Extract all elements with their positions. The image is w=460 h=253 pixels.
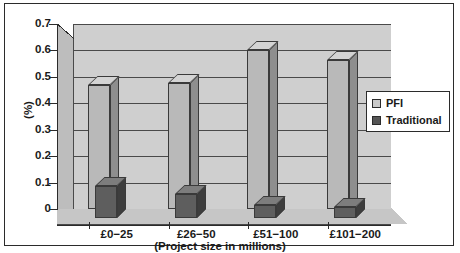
x-tick-label: £101−200	[330, 228, 382, 240]
y-tick-mark	[49, 24, 58, 25]
y-tick-label: 0	[11, 203, 51, 215]
y-axis-top-slant	[57, 24, 74, 39]
legend-item-pfi: PFI	[372, 96, 442, 110]
bar-side	[349, 51, 358, 209]
y-tick-mark	[49, 130, 58, 131]
bar-traditional	[175, 194, 197, 218]
legend-swatch-icon	[372, 99, 381, 108]
y-tick-label: 0.6	[11, 45, 51, 57]
chart-legend: PFI Traditional	[366, 91, 450, 132]
plot-side-wall	[57, 38, 73, 209]
y-tick-label: 0.1	[11, 177, 51, 189]
y-tick-mark	[49, 77, 58, 78]
legend-swatch-icon	[372, 116, 381, 125]
y-tick-label: 0.5	[11, 71, 51, 83]
y-tick-mark	[49, 156, 58, 157]
y-axis-tick-labels: 0.7 0.6 0.5 0.4 0.3 0.2 0.1 0	[7, 4, 51, 253]
x-tick-mark	[328, 222, 329, 229]
legend-label: PFI	[386, 98, 403, 109]
bar-traditional	[334, 207, 356, 218]
bar-face	[334, 207, 356, 218]
legend-label: Traditional	[386, 115, 442, 126]
x-axis-line	[57, 225, 391, 226]
y-tick-label: 0.4	[11, 98, 51, 110]
x-tick-label: £51−100	[253, 228, 298, 240]
legend-item-traditional: Traditional	[372, 113, 442, 127]
chart-stage: (%) 0.7 0.6 0.5 0.4 0.3 0.2 0.1 0	[5, 4, 460, 253]
y-tick-label: 0.7	[11, 18, 51, 30]
bar-face	[254, 205, 276, 218]
y-tick-mark	[49, 103, 58, 104]
bar-pfi	[247, 50, 269, 209]
x-tick-mark	[248, 222, 249, 229]
bar-face	[95, 186, 117, 218]
chart-frame: (%) 0.7 0.6 0.5 0.4 0.3 0.2 0.1 0	[4, 3, 454, 246]
x-tick-mark	[169, 222, 170, 229]
y-tick-mark	[49, 50, 58, 51]
y-tick-mark	[49, 209, 58, 210]
bar-side	[269, 41, 278, 209]
x-tick-label: £0−25	[101, 228, 133, 240]
bar-pfi	[327, 60, 349, 209]
x-tick-label: £26−50	[177, 228, 216, 240]
y-tick-mark	[49, 183, 58, 184]
bar-face	[327, 60, 349, 209]
x-axis-title: (Project size in millions)	[5, 240, 435, 252]
bar-traditional	[254, 205, 276, 218]
y-tick-label: 0.3	[11, 124, 51, 136]
bar-face	[175, 194, 197, 218]
bar-face	[247, 50, 269, 209]
y-tick-label: 0.2	[11, 150, 51, 162]
x-tick-mark	[89, 222, 90, 229]
bar-traditional	[95, 186, 117, 218]
